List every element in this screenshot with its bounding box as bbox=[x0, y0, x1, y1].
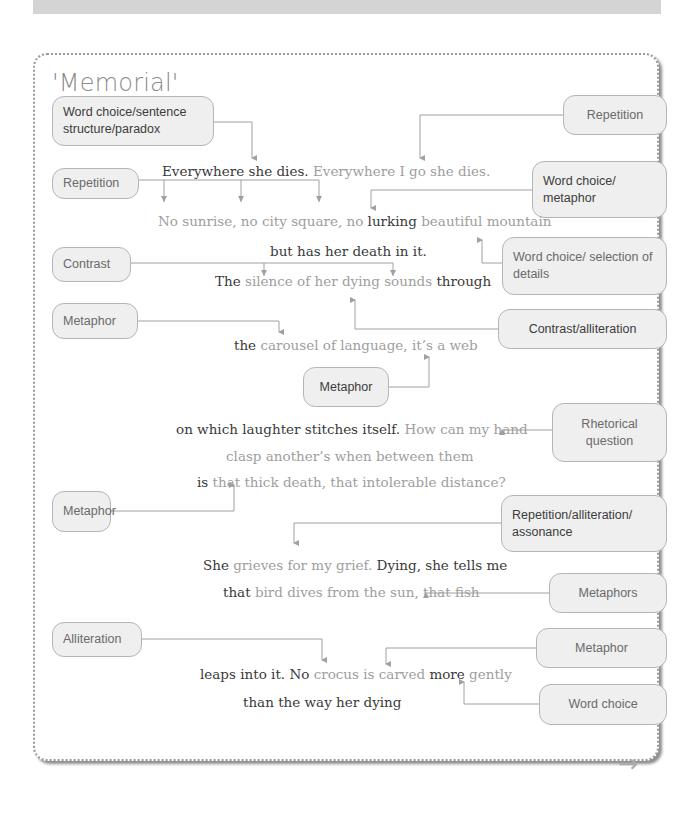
annotation-contrast-alliteration: Contrast/alliteration bbox=[498, 309, 667, 349]
annotation-word-choice-structure-paradox: Word choice/sentence structure/paradox bbox=[52, 96, 214, 146]
annotation-metaphor-web: Metaphor bbox=[303, 367, 389, 407]
annotation-repetition-right: Repetition bbox=[563, 95, 667, 135]
annotation-alliteration: Alliteration bbox=[52, 622, 142, 657]
poem-line-7: clasp another’s when between them bbox=[226, 447, 473, 465]
poem-line-4: The silence of her dying sounds through bbox=[215, 272, 491, 290]
poem-line-11: leaps into it. No crocus is carved more … bbox=[200, 665, 512, 683]
header-band bbox=[33, 0, 661, 14]
annotation-metaphors: Metaphors bbox=[549, 573, 667, 613]
annotation-repetition-left: Repetition bbox=[52, 168, 139, 199]
annotation-metaphor-death: Metaphor bbox=[52, 491, 111, 532]
annotation-word-choice-selection: Word choice/ selection of details bbox=[502, 237, 667, 295]
poem-line-5: the carousel of language, it’s a web bbox=[234, 336, 478, 354]
page-title: 'Memorial' bbox=[52, 69, 179, 97]
annotation-word-choice-metaphor: Word choice/ metaphor bbox=[532, 161, 667, 218]
annotation-word-choice: Word choice bbox=[539, 684, 667, 725]
poem-line-8: is that thick death, that intolerable di… bbox=[197, 473, 506, 491]
poem-line-2: No sunrise, no city square, no lurking b… bbox=[158, 212, 551, 230]
poem-line-6: on which laughter stitches itself. How c… bbox=[176, 420, 528, 438]
next-page-arrow-icon[interactable]: → bbox=[618, 752, 638, 776]
annotation-repetition-alliteration-assonance: Repetition/alliteration/ assonance bbox=[501, 495, 667, 552]
annotation-metaphor-crocus: Metaphor bbox=[536, 628, 667, 668]
poem-line-1: Everywhere she dies. Everywhere I go she… bbox=[162, 162, 490, 180]
annotation-rhetorical-question: Rhetorical question bbox=[552, 403, 667, 462]
poem-line-12: than the way her dying bbox=[243, 693, 401, 711]
poem-line-3: but has her death in it. bbox=[270, 242, 427, 260]
poem-line-9: She grieves for my grief. Dying, she tel… bbox=[203, 556, 507, 574]
annotation-contrast: Contrast bbox=[52, 247, 131, 282]
poem-line-10: that bird dives from the sun, that fish bbox=[223, 583, 480, 601]
annotation-metaphor-carousel: Metaphor bbox=[52, 303, 138, 339]
